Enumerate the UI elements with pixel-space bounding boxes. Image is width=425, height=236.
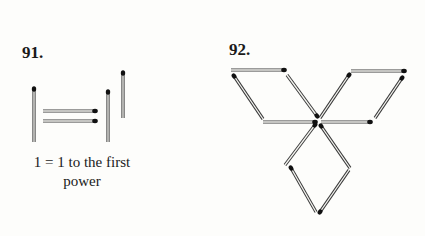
- matchstick: [318, 122, 350, 168]
- matchstick: [317, 170, 349, 216]
- match-head-icon: [121, 70, 125, 76]
- matchstick: [321, 120, 373, 124]
- matchstick: [32, 86, 36, 142]
- match-head-icon: [92, 109, 98, 113]
- matchstick: [351, 69, 407, 73]
- match-head-icon: [106, 89, 110, 95]
- match-head-icon: [401, 69, 407, 73]
- matchstick: [375, 74, 405, 118]
- match-head-icon: [281, 68, 287, 72]
- match-head-icon: [92, 119, 98, 123]
- match-head-icon: [32, 86, 36, 92]
- matchstick: [106, 89, 110, 142]
- matchstick: [121, 70, 125, 118]
- matchstick: [231, 68, 287, 72]
- matchstick: [287, 75, 320, 120]
- matchstick: [320, 71, 352, 118]
- match-head-icon: [367, 120, 373, 124]
- matchstick: [263, 120, 318, 124]
- matchstick-figures: [0, 0, 425, 236]
- matchstick: [285, 121, 318, 165]
- matchstick: [43, 109, 98, 113]
- matchstick: [43, 119, 98, 123]
- matchstick: [231, 72, 263, 119]
- matchstick: [288, 164, 316, 212]
